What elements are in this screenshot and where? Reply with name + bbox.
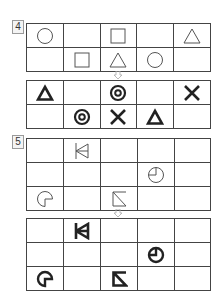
bold-slash-box-icon <box>110 270 128 288</box>
grid-cell[interactable] <box>100 267 137 291</box>
bold-triangle-icon <box>36 84 54 102</box>
circle-icon <box>146 51 164 69</box>
grid-cell[interactable] <box>27 219 64 243</box>
grid-cell[interactable] <box>137 187 174 211</box>
bullseye-icon <box>109 84 127 102</box>
bold-x-icon <box>183 84 201 102</box>
bold-x-icon <box>109 108 127 126</box>
grid-cell[interactable] <box>137 219 174 243</box>
problem-number-4: 4 <box>12 20 24 34</box>
grid-cell[interactable] <box>174 243 210 267</box>
grid-cell[interactable] <box>27 24 64 48</box>
fan-triangle-icon <box>73 142 91 160</box>
grid-cell[interactable] <box>137 24 174 48</box>
grid-cell[interactable] <box>174 24 211 48</box>
grid-cell[interactable] <box>137 163 174 187</box>
grid-cell[interactable] <box>100 105 137 129</box>
grid-cell[interactable] <box>27 187 64 211</box>
grid-cell[interactable] <box>174 81 211 105</box>
triangle-icon <box>109 51 127 69</box>
clock-circle-icon <box>147 166 165 184</box>
grid-cell[interactable] <box>63 219 100 243</box>
grid-cell[interactable] <box>27 163 64 187</box>
grid-cell[interactable] <box>174 219 210 243</box>
grid-cell[interactable] <box>100 187 137 211</box>
cutout-circle-icon <box>36 190 54 208</box>
problem-number-5: 5 <box>12 135 24 149</box>
grid-cell[interactable] <box>63 243 100 267</box>
grid-cell[interactable] <box>100 163 137 187</box>
grid-cell[interactable] <box>174 187 210 211</box>
grid-cell[interactable] <box>137 105 174 129</box>
grid-cell[interactable] <box>63 187 100 211</box>
grid-cell[interactable] <box>100 24 137 48</box>
grid-cell[interactable] <box>137 243 174 267</box>
grid-cell[interactable] <box>63 81 100 105</box>
square-icon <box>109 27 127 45</box>
grid-cell[interactable] <box>174 105 211 129</box>
triangle-icon <box>183 27 201 45</box>
grid-cell[interactable] <box>137 48 174 72</box>
grid-cell[interactable] <box>100 48 137 72</box>
grid-cell[interactable] <box>63 267 100 291</box>
grid-cell[interactable] <box>174 139 210 163</box>
grid-cell[interactable] <box>27 139 64 163</box>
grid-cell[interactable] <box>63 139 100 163</box>
grid-cell[interactable] <box>63 48 100 72</box>
grid-cell[interactable] <box>27 267 64 291</box>
grid-cell[interactable] <box>27 243 64 267</box>
square-icon <box>73 51 91 69</box>
grid-cell[interactable] <box>137 267 174 291</box>
down-arrow-icon <box>113 71 123 79</box>
grid-cell[interactable] <box>27 48 64 72</box>
grid-cell[interactable] <box>174 163 210 187</box>
bold-fan-triangle-icon <box>73 222 91 240</box>
grid-cell[interactable] <box>100 139 137 163</box>
grid-cell[interactable] <box>27 105 64 129</box>
grid-cell[interactable] <box>174 48 211 72</box>
grid-cell[interactable] <box>100 219 137 243</box>
slash-box-icon <box>110 190 128 208</box>
problem-4-after-grid <box>26 80 211 129</box>
circle-icon <box>36 27 54 45</box>
grid-cell[interactable] <box>63 24 100 48</box>
bold-cutout-circle-icon <box>36 270 54 288</box>
grid-cell[interactable] <box>137 139 174 163</box>
problem-4-before-grid <box>26 23 211 72</box>
grid-cell[interactable] <box>63 163 100 187</box>
problem-5-after-grid <box>26 218 211 291</box>
grid-cell[interactable] <box>174 267 210 291</box>
grid-cell[interactable] <box>100 243 137 267</box>
grid-cell[interactable] <box>63 105 100 129</box>
grid-cell[interactable] <box>137 81 174 105</box>
problem-5-before-grid <box>26 138 211 211</box>
bold-triangle-icon <box>146 108 164 126</box>
bullseye-icon <box>73 108 91 126</box>
bold-clock-circle-icon <box>147 246 165 264</box>
grid-cell[interactable] <box>100 81 137 105</box>
grid-cell[interactable] <box>27 81 64 105</box>
down-arrow-icon <box>113 209 123 217</box>
